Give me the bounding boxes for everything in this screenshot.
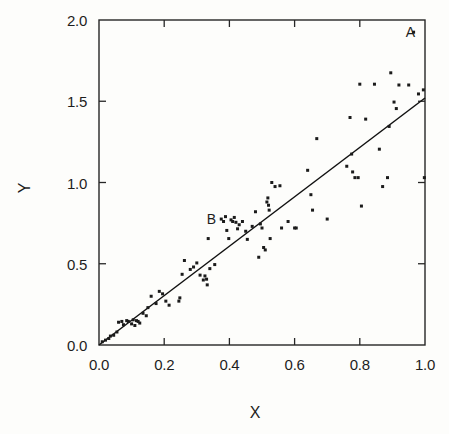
data-point <box>315 137 318 140</box>
data-point <box>261 227 264 230</box>
data-point <box>138 322 141 325</box>
data-point <box>181 273 184 276</box>
data-point <box>373 83 376 86</box>
x-tick-label-5: 1.0 <box>415 356 435 373</box>
data-point <box>389 71 392 74</box>
data-point <box>224 215 227 218</box>
data-point <box>189 268 192 271</box>
data-point <box>236 227 239 230</box>
data-point <box>150 295 153 298</box>
data-point <box>306 169 309 172</box>
data-point <box>122 323 125 326</box>
data-point <box>407 84 410 87</box>
x-tick-label-2: 0.4 <box>219 356 239 373</box>
data-point <box>177 300 180 303</box>
x-tick-label-3: 0.6 <box>285 356 305 373</box>
data-point <box>270 181 273 184</box>
data-point <box>388 125 391 128</box>
data-point <box>295 227 298 230</box>
plot-canvas: 0.00.20.40.60.81.0 0.00.51.01.52.0 AB X … <box>0 0 449 434</box>
data-point <box>257 256 260 259</box>
data-point <box>269 237 272 240</box>
data-point <box>423 176 426 179</box>
data-point <box>117 321 120 324</box>
data-point <box>311 209 314 212</box>
data-point <box>155 302 158 305</box>
data-point <box>183 259 186 262</box>
data-point <box>349 116 352 119</box>
data-point <box>268 209 271 212</box>
data-point <box>227 237 230 240</box>
data-point <box>278 184 281 187</box>
data-point <box>199 274 202 277</box>
data-point <box>241 220 244 223</box>
x-tick-label-0: 0.0 <box>89 356 109 373</box>
data-point <box>246 238 249 241</box>
data-point <box>120 320 123 323</box>
data-point <box>109 335 112 338</box>
data-point <box>254 210 257 213</box>
data-point <box>145 314 148 317</box>
data-point <box>112 334 115 337</box>
data-point <box>266 196 269 199</box>
data-point <box>381 185 384 188</box>
data-point <box>130 322 133 325</box>
data-point <box>422 88 425 91</box>
data-point <box>213 263 216 266</box>
data-point <box>259 222 262 225</box>
data-point <box>238 223 241 226</box>
data-point <box>132 318 135 321</box>
data-point <box>202 279 205 282</box>
annotation-label-a: A <box>406 24 416 40</box>
data-point <box>178 296 181 299</box>
data-point <box>264 248 267 251</box>
data-point <box>104 339 107 342</box>
data-point <box>364 118 367 121</box>
data-point <box>350 153 353 156</box>
data-point <box>378 148 381 151</box>
x-tick-label-4: 0.8 <box>350 356 370 373</box>
data-point <box>231 220 234 223</box>
y-tick-label-3: 1.5 <box>67 93 87 110</box>
data-point <box>353 176 356 179</box>
data-point <box>265 201 268 204</box>
data-point <box>397 84 400 87</box>
data-point <box>358 83 361 86</box>
data-point <box>267 204 270 207</box>
data-point <box>146 306 149 309</box>
data-point <box>127 320 130 323</box>
data-point <box>326 218 329 221</box>
data-point <box>274 185 277 188</box>
data-point <box>203 274 206 277</box>
y-tick-label-4: 2.0 <box>67 12 87 29</box>
data-point <box>345 165 348 168</box>
data-point <box>133 324 136 327</box>
scatter-plot-figure: 0.00.20.40.60.81.0 0.00.51.01.52.0 AB X … <box>0 0 449 434</box>
data-point <box>222 220 225 223</box>
x-tick-label-1: 0.2 <box>154 356 174 373</box>
data-point <box>280 227 283 230</box>
data-point <box>417 92 420 95</box>
data-point <box>161 292 164 295</box>
data-point <box>225 229 228 232</box>
y-axis-title: Y <box>16 182 33 193</box>
data-point <box>208 267 211 270</box>
y-tick-label-1: 0.5 <box>67 256 87 273</box>
y-tick-label-2: 1.0 <box>67 175 87 192</box>
data-point <box>206 283 209 286</box>
data-point <box>142 312 145 315</box>
data-point <box>287 220 290 223</box>
data-point <box>360 205 363 208</box>
data-point <box>101 340 104 343</box>
y-tick-label-0: 0.0 <box>67 337 87 354</box>
data-point <box>205 278 208 281</box>
annotation-label-b: B <box>207 211 216 227</box>
data-point <box>309 193 312 196</box>
data-point <box>244 230 247 233</box>
data-point <box>115 331 118 334</box>
data-point <box>164 300 167 303</box>
data-point <box>251 225 254 228</box>
x-axis-title: X <box>250 404 261 421</box>
data-point <box>192 266 195 269</box>
data-point <box>207 237 210 240</box>
